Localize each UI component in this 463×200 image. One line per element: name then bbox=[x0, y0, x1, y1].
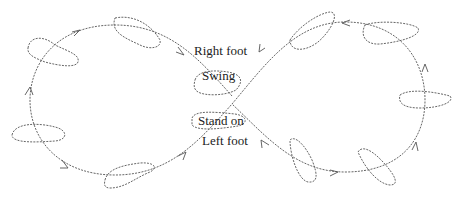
arrow-icon bbox=[25, 87, 33, 95]
arrow-icon bbox=[176, 47, 184, 55]
arrow-icon bbox=[412, 142, 418, 151]
footprint bbox=[290, 139, 316, 182]
arrow-icon bbox=[330, 170, 338, 176]
swing-label: Swing bbox=[202, 68, 235, 84]
arrow-icon bbox=[261, 140, 269, 148]
footprint bbox=[114, 17, 160, 48]
arrow-icon bbox=[342, 20, 350, 26]
arrow-icon bbox=[422, 64, 428, 72]
arrow-icon bbox=[259, 44, 265, 52]
footprint bbox=[12, 124, 65, 142]
figure-eight-diagram: Right foot Swing Stand on Left foot bbox=[0, 0, 463, 200]
arrow-icon bbox=[72, 30, 80, 36]
stand-on-label: Stand on bbox=[198, 113, 244, 129]
left-foot-label: Left foot bbox=[202, 133, 248, 149]
right-foot-label: Right foot bbox=[194, 43, 247, 59]
footprint bbox=[28, 38, 78, 66]
path-drawing bbox=[0, 0, 463, 200]
footprint bbox=[290, 12, 334, 49]
footprint bbox=[105, 163, 155, 188]
footprint bbox=[358, 149, 395, 185]
